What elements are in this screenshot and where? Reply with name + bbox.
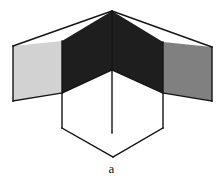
outer-left-face [13,41,62,101]
outer-right-face [163,42,212,101]
figure-caption-label: a [0,162,223,176]
figure-container: a [0,0,223,190]
